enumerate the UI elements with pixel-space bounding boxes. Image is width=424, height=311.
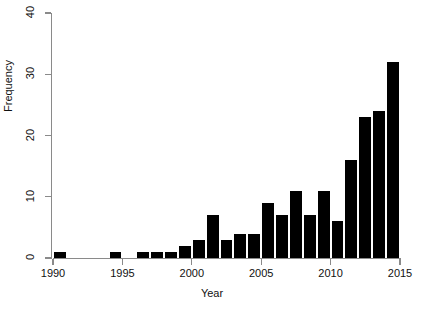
y-tick-mark	[45, 135, 51, 136]
histogram-bar	[261, 203, 275, 258]
y-axis-title: Frequency	[2, 60, 14, 112]
x-tick-label: 1995	[110, 267, 134, 279]
x-tick-label: 1990	[41, 267, 65, 279]
x-tick-mark	[399, 259, 400, 265]
histogram-bar	[178, 246, 192, 258]
y-tick-label: 30	[24, 60, 36, 86]
y-tick-label: 20	[24, 122, 36, 148]
histogram-bar	[220, 240, 234, 258]
y-tick-mark	[45, 196, 51, 197]
histogram-bar	[192, 240, 206, 258]
x-axis-title: Year	[0, 287, 424, 299]
x-tick-label: 2005	[249, 267, 273, 279]
x-tick-mark	[52, 259, 53, 265]
histogram-bar	[164, 252, 178, 258]
histogram-figure: 010203040 199019952000200520102015 Frequ…	[0, 0, 424, 311]
y-tick-mark	[45, 74, 51, 75]
y-tick-label: 10	[24, 183, 36, 209]
x-tick-mark	[330, 259, 331, 265]
y-tick-label: 40	[24, 0, 36, 25]
y-tick-label: 0	[24, 244, 36, 270]
histogram-bar	[289, 191, 303, 258]
x-tick-mark	[191, 259, 192, 265]
histogram-bar	[206, 215, 220, 258]
x-tick-label: 2000	[180, 267, 204, 279]
histogram-bar	[275, 215, 289, 258]
plot-area	[53, 13, 400, 258]
histogram-bar	[233, 234, 247, 259]
histogram-bar	[53, 252, 67, 258]
histogram-bar	[317, 191, 331, 258]
histogram-bar	[358, 117, 372, 258]
histogram-bar	[136, 252, 150, 258]
y-tick-mark	[45, 12, 51, 13]
histogram-bar	[303, 215, 317, 258]
histogram-bar	[386, 62, 400, 258]
histogram-bar	[150, 252, 164, 258]
x-tick-label: 2015	[388, 267, 412, 279]
y-tick-mark	[45, 257, 51, 258]
x-tick-mark	[122, 259, 123, 265]
histogram-bar	[247, 234, 261, 259]
x-tick-label: 2010	[318, 267, 342, 279]
histogram-bar	[331, 221, 345, 258]
histogram-bar	[109, 252, 123, 258]
histogram-bar	[372, 111, 386, 258]
histogram-bar	[344, 160, 358, 258]
x-tick-mark	[261, 259, 262, 265]
